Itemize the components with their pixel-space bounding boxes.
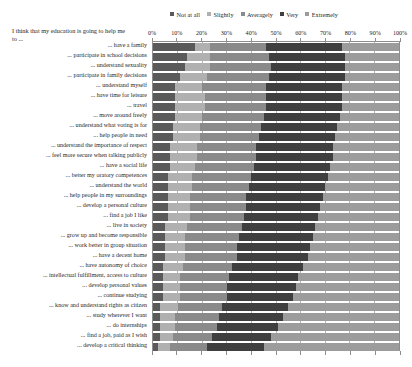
legend-entry: Very — [280, 11, 298, 18]
bar-segment — [153, 303, 160, 310]
bar-segment — [269, 53, 345, 60]
legend-label: Not at all — [177, 11, 201, 18]
legend-swatch-icon — [207, 12, 211, 16]
x-axis-tick-label: 10% — [171, 29, 182, 37]
legend-swatch-icon — [280, 12, 284, 16]
bar-segment — [153, 203, 168, 210]
category-label: ... intellectual fulfillment, access to … — [43, 272, 147, 279]
bar-segment — [180, 73, 207, 80]
category-label: ... have a social life — [100, 162, 147, 169]
bar-row — [153, 73, 399, 80]
bar-segment — [185, 63, 210, 70]
bar-segment — [163, 283, 180, 290]
x-axis-tick-label: 20% — [196, 29, 207, 37]
category-label: ... find a job, paid as I wish — [81, 332, 147, 339]
bar-segment — [345, 53, 399, 60]
bar-segment — [153, 263, 163, 270]
bar-segment — [163, 273, 180, 280]
bar-segment — [254, 163, 330, 170]
bar-segment — [244, 213, 318, 220]
bar-segment — [303, 263, 399, 270]
x-axis-tick-label: 90% — [370, 29, 381, 37]
bar-segment — [315, 223, 399, 230]
bar-segment — [210, 43, 267, 50]
bar-segment — [160, 303, 177, 310]
axis-tick-mark — [350, 351, 351, 355]
bar-segment — [153, 233, 165, 240]
bar-segment — [168, 173, 193, 180]
bar-segment — [195, 43, 210, 50]
bar-segment — [153, 313, 160, 320]
category-label: ... understand sexuality — [91, 62, 147, 69]
bar-segment — [175, 83, 202, 90]
bar-segment — [222, 303, 288, 310]
bar-segment — [168, 203, 190, 210]
bar-segment — [153, 123, 173, 130]
bar-segment — [153, 213, 168, 220]
bar-segment — [153, 63, 185, 70]
bar-row — [153, 153, 399, 160]
bar-segment — [318, 213, 399, 220]
bar-segment — [153, 223, 165, 230]
bar-segment — [210, 63, 272, 70]
bar-segment — [170, 153, 197, 160]
bar-segment — [153, 113, 175, 120]
chart-legend: Not at allSlightlyAveragelyVeryExtremely — [170, 8, 408, 20]
bar-segment — [153, 153, 170, 160]
bar-segment — [261, 123, 337, 130]
bar-segment — [180, 293, 227, 300]
bar-segment — [345, 73, 399, 80]
bar-segment — [153, 143, 170, 150]
bar-segment — [249, 183, 325, 190]
bar-row — [153, 313, 399, 320]
bar-segment — [185, 243, 237, 250]
category-label: ... develop a critical thinking — [77, 342, 147, 349]
bar-segment — [342, 43, 399, 50]
bar-row — [153, 183, 399, 190]
bar-segment — [237, 253, 308, 260]
bar-segment — [271, 333, 399, 340]
bar-row — [153, 173, 399, 180]
bar-segment — [192, 173, 251, 180]
bar-segment — [205, 103, 267, 110]
category-label: ... travel — [127, 102, 147, 109]
bar-segment — [207, 343, 264, 350]
bar-segment — [168, 183, 193, 190]
bar-segment — [229, 273, 298, 280]
bar-segment — [269, 73, 345, 80]
bar-segment — [313, 233, 399, 240]
bar-segment — [153, 293, 163, 300]
category-label: ... feel more secure when talking public… — [46, 152, 147, 159]
bar-segment — [175, 103, 205, 110]
bar-segment — [210, 53, 269, 60]
bar-segment — [330, 163, 399, 170]
axis-tick-mark — [400, 351, 401, 355]
bar-segment — [219, 313, 283, 320]
survey-stacked-bar-chart: Not at allSlightlyAveragelyVeryExtremely… — [0, 0, 412, 367]
bar-row — [153, 83, 399, 90]
bar-segment — [153, 73, 180, 80]
bar-segment — [175, 93, 205, 100]
bar-row — [153, 163, 399, 170]
bar-row — [153, 273, 399, 280]
bar-segment — [200, 133, 259, 140]
legend-swatch-icon — [241, 12, 245, 16]
bar-segment — [168, 193, 190, 200]
bar-segment — [163, 263, 183, 270]
bar-row — [153, 103, 399, 110]
bar-segment — [337, 123, 399, 130]
bar-segment — [190, 193, 247, 200]
bar-segment — [153, 193, 168, 200]
bar-segment — [217, 323, 279, 330]
legend-label: Very — [286, 11, 298, 18]
bar-segment — [175, 313, 219, 320]
bar-segment — [342, 103, 399, 110]
category-label: ... work better in group situation — [68, 242, 147, 249]
bar-segment — [232, 263, 303, 270]
bar-row — [153, 133, 399, 140]
category-label: ... better my oratory competences — [66, 172, 147, 179]
bar-segment — [153, 173, 168, 180]
bar-row — [153, 263, 399, 270]
bar-segment — [170, 143, 197, 150]
category-label: ... have a family — [108, 42, 147, 49]
